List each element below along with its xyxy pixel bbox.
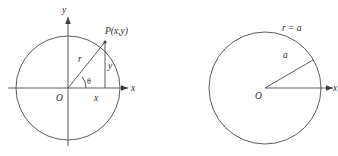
right-x-axis-label: x — [332, 83, 338, 93]
right-diagram-group: x O a r = a — [209, 23, 338, 144]
left-diagram-group: x y O P(x,y) r θ y x — [8, 5, 136, 146]
right-equation-label: r = a — [282, 23, 302, 33]
left-origin-label: O — [56, 93, 63, 103]
right-origin-label: O — [255, 91, 262, 101]
left-vertical-leg-label: y — [107, 61, 113, 71]
left-y-axis-arrowhead — [65, 17, 71, 24]
right-radius-label: a — [283, 50, 288, 60]
left-angle-arc — [82, 77, 86, 88]
left-angle-label: θ — [87, 77, 91, 86]
left-radius-label: r — [78, 54, 82, 64]
left-point-label: P(x,y) — [104, 26, 128, 37]
polar-coordinates-figure: x y O P(x,y) r θ y x x O a r = a — [0, 0, 338, 156]
left-y-axis-label: y — [61, 5, 67, 15]
left-x-axis-arrowhead — [121, 85, 128, 91]
left-x-axis-label: x — [130, 83, 136, 93]
left-horizontal-leg-label: x — [93, 93, 99, 103]
right-x-axis-arrowhead — [326, 85, 333, 91]
figure-root: x y O P(x,y) r θ y x x O a r = a — [0, 0, 338, 156]
left-point-marker — [103, 40, 106, 43]
right-radius-segment — [265, 60, 313, 88]
